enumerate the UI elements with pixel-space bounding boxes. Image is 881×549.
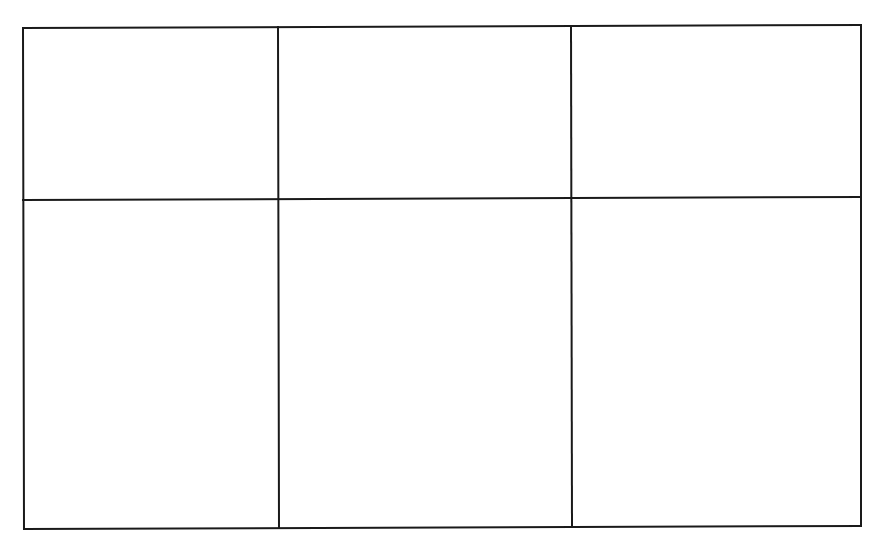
grid-border-bottom bbox=[24, 526, 861, 529]
grid-border-left bbox=[23, 28, 24, 529]
grid-column-divider-1 bbox=[278, 27, 279, 528]
grid-column-divider-2 bbox=[571, 26, 572, 527]
grid-diagram bbox=[0, 0, 881, 549]
grid-border-top bbox=[23, 25, 861, 28]
grid-row-divider bbox=[23, 197, 861, 200]
